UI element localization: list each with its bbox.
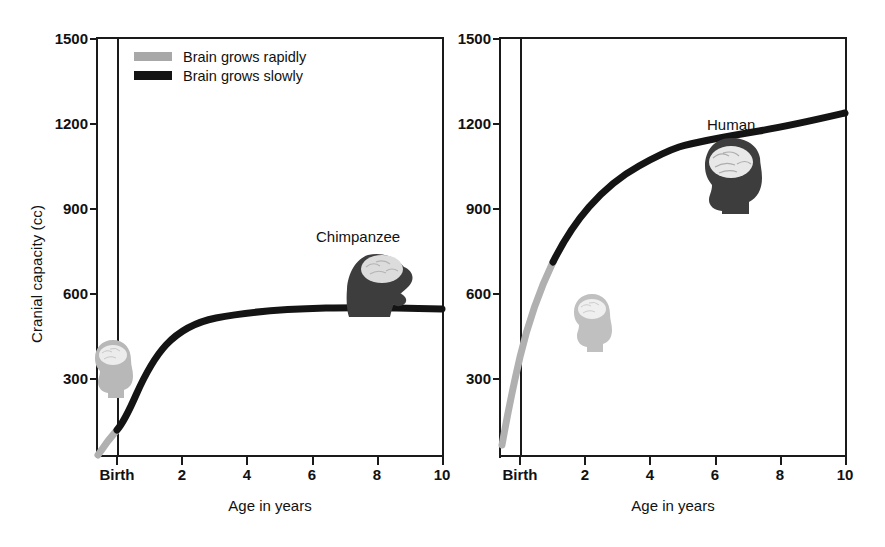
legend-swatch-rapid-icon — [134, 52, 172, 61]
annotation-human: Human — [707, 116, 755, 133]
x-tick-8-left: 8 — [357, 466, 397, 483]
x-tick-4-right: 4 — [630, 466, 670, 483]
x-tickmark-birth-right — [519, 457, 521, 465]
chart-curve-right — [499, 37, 849, 459]
x-tickmark-6-right — [715, 457, 717, 465]
x-tick-birth-right: Birth — [495, 466, 545, 483]
y-axis-label-left: Cranial capacity (cc) — [28, 205, 45, 343]
legend-item-slow: Brain grows slowly — [134, 67, 306, 84]
x-tickmark-4-right — [649, 457, 651, 465]
x-tick-6-right: 6 — [695, 466, 735, 483]
x-tickmark-birth-left — [116, 457, 118, 465]
panel-human: 1500 1200 900 600 300 Human — [443, 0, 885, 547]
y-tick-300-left: 300 — [32, 370, 88, 387]
legend-swatch-slow-icon — [134, 71, 172, 80]
x-tick-10-right: 10 — [825, 466, 865, 483]
y-tick-1200-left: 1200 — [32, 115, 88, 132]
y-tick-1500-right: 1500 — [435, 30, 491, 47]
x-tick-2-left: 2 — [162, 466, 202, 483]
annotation-chimpanzee: Chimpanzee — [316, 228, 400, 245]
figure-brain-growth-comparison: Cranial capacity (cc) 1500 1200 900 600 … — [0, 0, 885, 547]
chart-curve-left — [96, 37, 446, 459]
y-tick-900-left: 900 — [32, 200, 88, 217]
legend-label-rapid: Brain grows rapidly — [183, 49, 306, 65]
x-tickmark-10-right — [845, 457, 847, 465]
human-head-silhouette-icon — [697, 136, 769, 214]
x-tick-2-right: 2 — [565, 466, 605, 483]
y-tick-1200-right: 1200 — [435, 115, 491, 132]
x-tickmark-8-right — [780, 457, 782, 465]
legend-item-rapid: Brain grows rapidly — [134, 48, 306, 65]
y-tick-600-right: 600 — [435, 285, 491, 302]
x-tickmark-2-left — [181, 457, 183, 465]
x-tickmark-6-left — [312, 457, 314, 465]
x-tick-8-right: 8 — [760, 466, 800, 483]
x-tick-6-left: 6 — [292, 466, 332, 483]
infant-head-silhouette-icon-right — [571, 292, 617, 354]
x-tickmark-4-left — [246, 457, 248, 465]
x-tickmark-8-left — [377, 457, 379, 465]
infant-head-silhouette-icon-left — [92, 338, 138, 400]
y-tick-1500-left: 1500 — [32, 30, 88, 47]
x-tick-birth-left: Birth — [92, 466, 142, 483]
legend-label-slow: Brain grows slowly — [183, 68, 303, 84]
x-tickmark-2-right — [584, 457, 586, 465]
y-tick-900-right: 900 — [435, 200, 491, 217]
chimpanzee-head-silhouette-icon — [342, 249, 416, 321]
legend-left: Brain grows rapidly Brain grows slowly — [134, 48, 306, 86]
y-tick-300-right: 300 — [435, 370, 491, 387]
x-tick-4-left: 4 — [227, 466, 267, 483]
x-axis-label-right: Age in years — [583, 497, 763, 514]
panel-chimpanzee: Cranial capacity (cc) 1500 1200 900 600 … — [0, 0, 442, 547]
x-axis-label-left: Age in years — [180, 497, 360, 514]
y-tick-600-left: 600 — [32, 285, 88, 302]
